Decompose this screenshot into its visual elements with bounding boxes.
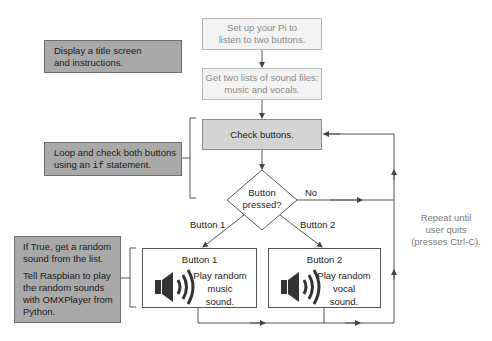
note-loop-text-b: statement. xyxy=(104,159,151,170)
action-button-2-box: Button 2 Play random vocal sound. xyxy=(268,248,381,308)
no-label: No xyxy=(305,187,317,198)
branch-1-label: Button 1 xyxy=(190,219,225,230)
note-title-screen: Display a title screen and instructions. xyxy=(44,40,182,73)
bracket-loop xyxy=(190,118,196,198)
step-lists-line2: music and vocals. xyxy=(224,84,300,96)
note-loop-line1: Loop and check both buttons xyxy=(54,147,181,159)
action-1-desc-line2: music xyxy=(190,282,250,295)
decision-line2: pressed? xyxy=(232,199,292,211)
action-2-desc-line2: vocal xyxy=(314,282,374,295)
action-1-desc-line3: sound. xyxy=(190,295,250,308)
bracket-play xyxy=(130,248,136,307)
note-play-line2: sound from the list. xyxy=(23,253,120,265)
note-play-line3: Tell Raspbian to play xyxy=(23,270,120,282)
action-button-1-box: Button 1 Play random music sound. xyxy=(142,248,257,308)
step-check-label: Check buttons. xyxy=(230,129,293,141)
action-2-title: Button 2 xyxy=(269,254,380,265)
step-setup-line2: listen to two buttons. xyxy=(219,34,306,46)
note-play: If True, get a random sound from the lis… xyxy=(14,236,121,323)
note-title-line1: Display a title screen xyxy=(54,45,181,57)
repeat-note: Repeat until user quits (presses Ctrl-C)… xyxy=(405,212,487,248)
action-1-desc-line1: Play random xyxy=(190,269,250,282)
step-check-box: Check buttons. xyxy=(202,119,322,150)
note-play-line5: with OMXPlayer from xyxy=(23,294,120,306)
note-loop-text-a: using an xyxy=(54,159,93,170)
repeat-line3: (presses Ctrl-C). xyxy=(405,236,487,248)
action-2-desc-line1: Play random xyxy=(314,269,374,282)
step-lists-line1: Get two lists of sound files: xyxy=(206,72,319,84)
note-play-line4: the random sounds xyxy=(23,282,120,294)
note-loop-code: if xyxy=(93,160,104,171)
repeat-line1: Repeat until xyxy=(405,212,487,224)
return-from-button-1 xyxy=(198,307,394,323)
action-2-desc: Play random vocal sound. xyxy=(314,269,374,308)
note-play-line6: Python. xyxy=(23,306,120,318)
note-loop: Loop and check both buttons using an if … xyxy=(44,142,182,176)
repeat-line2: user quits xyxy=(405,224,487,236)
note-title-line2: and instructions. xyxy=(54,57,181,69)
action-1-desc: Play random music sound. xyxy=(190,269,250,308)
note-play-line1: If True, get a random xyxy=(23,241,120,253)
decision-label: Button pressed? xyxy=(232,187,292,211)
action-1-title: Button 1 xyxy=(143,254,256,265)
branch-2-label: Button 2 xyxy=(300,219,335,230)
action-2-desc-line3: sound. xyxy=(314,295,374,308)
step-setup-box: Set up your Pi to listen to two buttons. xyxy=(202,18,322,50)
step-lists-box: Get two lists of sound files: music and … xyxy=(202,68,322,100)
note-loop-line2: using an if statement. xyxy=(54,159,181,172)
decision-line1: Button xyxy=(232,187,292,199)
step-setup-line1: Set up your Pi to xyxy=(227,22,297,34)
